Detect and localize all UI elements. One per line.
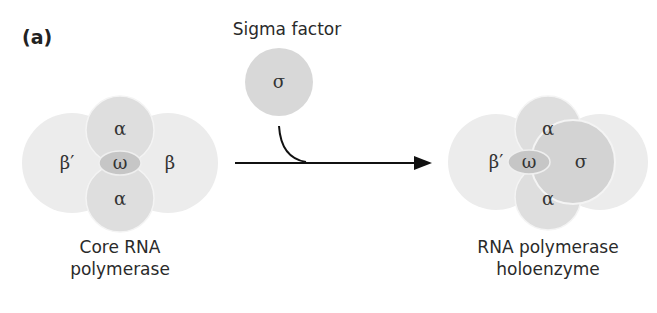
holo-sigma-label: σ	[575, 151, 587, 172]
holoenzyme: β′ α ω σ α	[448, 96, 648, 230]
alpha-bottom-label: α	[114, 188, 126, 209]
beta-label: β	[165, 152, 175, 173]
omega-label: ω	[113, 152, 128, 173]
holo-beta-prime-label: β′	[489, 151, 504, 172]
holoenzyme-caption: RNA polymerase holoenzyme	[463, 236, 633, 280]
holoenzyme-caption-line1: RNA polymerase	[463, 236, 633, 258]
core-caption: Core RNA polymerase	[45, 236, 195, 280]
alpha-top-label: α	[114, 118, 126, 139]
holoenzyme-caption-line2: holoenzyme	[463, 258, 633, 280]
beta-prime-label: β′	[60, 152, 75, 173]
holo-alpha-top-label: α	[542, 118, 554, 139]
sigma-symbol: σ	[273, 71, 285, 92]
holo-alpha-bottom-label: α	[542, 188, 554, 209]
sigma-factor-free: σ	[245, 48, 313, 116]
holo-omega-label: ω	[522, 151, 537, 172]
core-caption-line1: Core RNA	[45, 236, 195, 258]
core-polymerase: β′ β α ω α	[22, 96, 218, 232]
reaction-arrow	[235, 126, 432, 170]
core-caption-line2: polymerase	[45, 258, 195, 280]
